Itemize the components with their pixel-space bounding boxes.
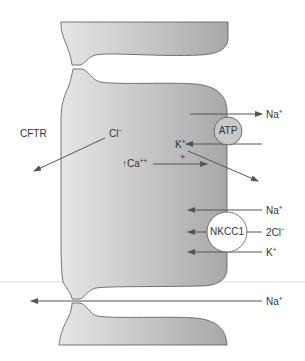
label-k-nkcc: K+	[266, 247, 276, 258]
label-plus: +	[180, 153, 185, 162]
label-na-nkcc: Na+	[266, 205, 283, 216]
label-calcium: ↑Ca++	[122, 158, 147, 169]
label-na-paracellular: Na+	[266, 296, 283, 307]
label-cftr: CFTR	[20, 129, 47, 139]
bottom-cell	[59, 303, 227, 345]
label-na-top: Na+	[266, 109, 283, 120]
diagram-canvas	[0, 0, 305, 361]
label-atp: ATP	[214, 126, 242, 136]
label-cl: Cl−	[109, 128, 122, 139]
top-cell	[61, 22, 228, 65]
label-nkcc1: NKCC1	[207, 227, 247, 237]
main-cell	[61, 69, 227, 299]
label-2cl-nkcc: 2Cl−	[266, 227, 285, 238]
label-k-inside: K+	[175, 139, 185, 150]
